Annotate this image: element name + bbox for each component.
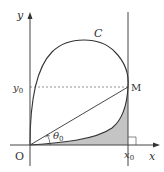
x-axis-label: x	[149, 150, 156, 163]
y-axis-label: y	[16, 9, 24, 22]
right-angle-marker	[128, 137, 136, 145]
point-m-label: M	[131, 82, 141, 93]
diagram-canvas: y x O C M y0 x0 θ0	[0, 0, 164, 172]
curve-label: C	[94, 27, 103, 40]
y0-label: y0	[12, 82, 23, 95]
theta0-label: θ0	[53, 130, 64, 143]
y-axis-arrow-icon	[28, 12, 33, 19]
origin-label: O	[15, 150, 24, 163]
x-axis-arrow-icon	[153, 143, 160, 148]
x0-label: x0	[124, 149, 134, 162]
